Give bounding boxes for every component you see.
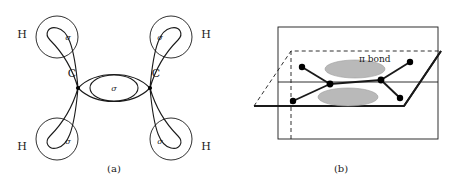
hydrogen-node-upper-right [407, 59, 413, 65]
caption-panel-a: (a) [107, 163, 121, 174]
panel-a-sigma-framework: C C H H H H σ σ σ σ σ (a) [0, 0, 228, 187]
label-sigma-bottom-right: σ [157, 137, 163, 146]
label-carbon-right: C [152, 67, 160, 80]
caption-panel-b: (b) [334, 163, 348, 174]
label-hydrogen-top-right: H [201, 28, 211, 41]
sp2-lobe-bottom-left [47, 88, 78, 148]
label-sigma-bottom-left: σ [65, 137, 71, 146]
carbon-vertex-right [148, 86, 152, 90]
label-sigma-center: σ [111, 84, 117, 93]
bonding-figure: C C H H H H σ σ σ σ σ (a) [0, 0, 455, 187]
panel-b-drawing: π bond (b) [228, 0, 455, 187]
label-pi-bond: π bond [359, 54, 391, 64]
label-hydrogen-bottom-right: H [201, 140, 211, 153]
hydrogen-node-lower-left [290, 98, 296, 104]
h-orbital-circle-top-left [36, 16, 78, 58]
pi-lobe-lower [318, 88, 378, 106]
panel-a-drawing: C C H H H H σ σ σ σ σ (a) [0, 0, 228, 187]
hydrogen-node-upper-left [299, 64, 305, 70]
hydrogen-node-lower-right [397, 95, 403, 101]
carbon-node-left [327, 81, 334, 88]
carbon-vertex-left [76, 86, 80, 90]
sp2-lobe-bottom-right [150, 88, 181, 148]
panel-b-pi-bond: π bond (b) [228, 0, 455, 187]
bond-c-right-h-lower [381, 80, 400, 98]
h-orbital-circle-bottom-left [36, 118, 78, 160]
bond-c-right-h-upper [381, 62, 410, 80]
label-sigma-top-left: σ [65, 33, 71, 42]
label-hydrogen-bottom-left: H [17, 140, 27, 153]
vertical-plane [278, 27, 438, 139]
carbon-node-right [378, 77, 385, 84]
label-carbon-left: C [68, 67, 76, 80]
label-sigma-top-right: σ [157, 33, 163, 42]
label-hydrogen-top-left: H [17, 28, 27, 41]
